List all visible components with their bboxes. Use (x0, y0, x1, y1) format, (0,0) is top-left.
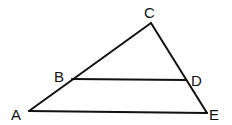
label-d: D (191, 72, 202, 89)
label-c: C (144, 4, 155, 21)
label-a: A (11, 106, 21, 123)
label-e: E (209, 106, 219, 123)
segment-ac (29, 23, 151, 111)
segment-ae (29, 111, 207, 113)
triangle-diagram: A B C D E (0, 0, 232, 125)
segment-bd (72, 79, 186, 80)
segment-ce (151, 23, 207, 113)
label-b: B (54, 68, 64, 85)
